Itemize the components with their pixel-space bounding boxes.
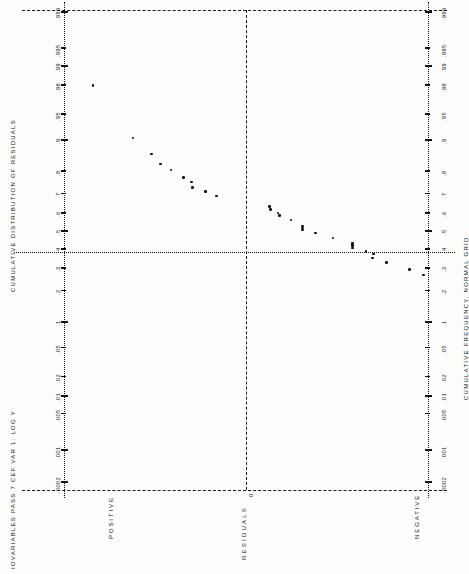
axis-tick <box>425 170 430 172</box>
axis-tick <box>61 113 66 115</box>
axis-tick <box>425 113 430 115</box>
tick-label: .4 <box>441 248 447 253</box>
axis-tick <box>425 376 430 378</box>
axis-tick <box>425 212 430 214</box>
tick-label: .999 <box>55 8 61 21</box>
axis-tick <box>61 84 66 86</box>
tick-label: .98 <box>55 83 61 92</box>
tick-label: .99 <box>55 63 61 72</box>
tick-label: .9 <box>441 139 447 144</box>
axis-tick <box>425 395 432 397</box>
tick-label: .995 <box>441 44 447 57</box>
right-axis-title: CUMULATIVE FREQUENCY, NORMAL GRID <box>463 237 469 401</box>
negative-side-label: NEGATIVE <box>414 494 420 539</box>
tick-label: .05 <box>55 345 61 354</box>
axis-tick <box>61 11 68 13</box>
tick-label: .1 <box>55 321 61 326</box>
axis-tick <box>425 321 432 323</box>
axis-tick <box>425 230 432 232</box>
data-point <box>150 153 153 156</box>
axis-tick <box>61 248 66 250</box>
data-point <box>92 84 95 87</box>
tick-label: .05 <box>441 345 447 354</box>
data-point <box>182 176 185 179</box>
frame-top-border <box>22 10 447 11</box>
data-point <box>278 214 281 217</box>
tick-label: .0002 <box>55 477 61 493</box>
axis-tick <box>425 47 430 49</box>
axis-tick <box>61 290 66 292</box>
positive-side-label: POSITIVE <box>108 496 114 539</box>
tick-label: .3 <box>441 267 447 272</box>
axis-tick <box>61 376 66 378</box>
tick-label: .999 <box>441 8 447 21</box>
tick-label: .6 <box>441 212 447 217</box>
axis-tick <box>61 170 66 172</box>
tick-label: .02 <box>441 374 447 383</box>
axis-tick <box>61 395 68 397</box>
tick-label: .9 <box>55 139 61 144</box>
tick-label: .95 <box>55 112 61 121</box>
axis-tick <box>425 413 430 415</box>
axis-tick <box>425 193 430 195</box>
tick-label: .8 <box>441 170 447 175</box>
axis-tick <box>61 481 68 483</box>
tick-label: .0002 <box>441 477 447 493</box>
axis-tick <box>425 11 432 13</box>
axis-tick <box>61 193 66 195</box>
tick-label: .01 <box>441 393 447 402</box>
axis-tick <box>61 413 66 415</box>
tick-label: .5 <box>55 230 61 235</box>
tick-label: .01 <box>55 393 61 402</box>
data-point <box>269 208 272 211</box>
axis-tick <box>425 481 432 483</box>
median-gridline <box>246 10 247 490</box>
data-point <box>365 250 368 253</box>
tick-label: .6 <box>55 212 61 217</box>
tick-label: .7 <box>55 193 61 198</box>
tick-label: .4 <box>55 248 61 253</box>
axis-tick <box>61 449 68 451</box>
tick-label: .995 <box>55 44 61 57</box>
axis-tick <box>425 248 430 250</box>
right-probability-axis <box>428 2 429 498</box>
tick-label: .8 <box>55 170 61 175</box>
axis-tick <box>61 321 68 323</box>
residuals-axis-label: RESIDUALS <box>240 506 247 560</box>
tick-label: .1 <box>441 321 447 326</box>
axis-tick <box>61 139 68 141</box>
axis-tick <box>425 267 430 269</box>
zero-residual-label: 0 <box>248 494 254 497</box>
axis-tick <box>425 290 430 292</box>
axis-tick <box>61 47 66 49</box>
axis-tick <box>425 65 432 67</box>
zero-residual-gridline <box>14 252 455 253</box>
tick-label: .3 <box>55 267 61 272</box>
data-point <box>314 232 317 235</box>
tick-label: .98 <box>441 83 447 92</box>
axis-tick <box>425 139 432 141</box>
tick-label: .2 <box>441 289 447 294</box>
axis-tick <box>61 267 66 269</box>
tick-label: .02 <box>55 374 61 383</box>
data-point <box>408 268 411 271</box>
axis-tick <box>425 347 430 349</box>
data-point <box>385 261 388 264</box>
axis-tick <box>61 347 66 349</box>
data-point <box>204 190 207 193</box>
axis-tick <box>425 449 432 451</box>
data-point <box>371 257 374 260</box>
tick-label: .005 <box>441 410 447 423</box>
data-point <box>422 274 425 277</box>
axis-tick <box>61 230 68 232</box>
data-point <box>191 186 194 189</box>
data-point <box>215 195 218 198</box>
tick-label: .005 <box>55 410 61 423</box>
plot-frame <box>22 10 447 490</box>
tick-label: .5 <box>441 230 447 235</box>
tick-label: .2 <box>55 289 61 294</box>
axis-tick <box>61 65 68 67</box>
tick-label: .001 <box>55 446 61 459</box>
tick-label: .99 <box>441 63 447 72</box>
left-probability-axis <box>64 2 65 498</box>
